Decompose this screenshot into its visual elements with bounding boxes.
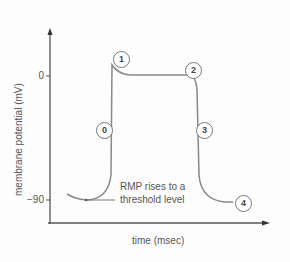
- threshold-annotation: RMP rises to a threshold level: [120, 180, 185, 206]
- action-potential-diagram: 0 −90 membrane potential (mV) time (msec…: [0, 0, 290, 262]
- phase-0-marker: 0: [96, 122, 113, 139]
- x-axis-label: time (msec): [132, 235, 184, 246]
- annotation-line-1: RMP rises to a: [120, 180, 185, 193]
- y-axis-label: membrane potential (mV): [13, 83, 24, 196]
- threshold-point: [85, 199, 87, 201]
- chart-plot-area: [0, 0, 290, 262]
- y-tick-label-0: 0: [14, 70, 44, 81]
- annotation-line-2: threshold level: [120, 193, 185, 206]
- phase-1-marker: 1: [113, 51, 130, 68]
- x-axis-arrow-icon: [262, 221, 270, 226]
- y-axis-arrow-icon: [48, 28, 53, 35]
- phase-2-marker: 2: [185, 62, 202, 79]
- phase-4-marker: 4: [235, 195, 252, 212]
- phase-3-marker: 3: [196, 122, 213, 139]
